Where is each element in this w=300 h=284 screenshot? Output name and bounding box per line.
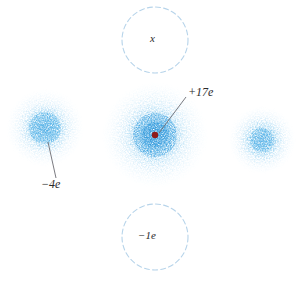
electron-cloud-figure: x −1e +17e −4e — [0, 0, 300, 284]
label-bottom-circle: −1e — [138, 230, 156, 241]
top-dashed-circle — [122, 7, 188, 73]
nucleus-dot — [152, 132, 158, 138]
label-left-cloud-charge: −4e — [41, 178, 60, 190]
right-electron-cloud — [228, 106, 296, 174]
label-top-circle: x — [150, 33, 155, 44]
left-electron-cloud — [6, 89, 84, 167]
label-nucleus-charge: +17e — [188, 86, 213, 98]
